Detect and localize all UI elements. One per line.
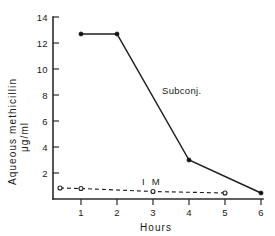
y-tick-label-12: 12 — [37, 38, 48, 49]
chart-svg: Aqueous methicillin μg/ml 14 12 10 8 6 4… — [0, 0, 275, 236]
y-tick-label-6: 6 — [42, 116, 48, 127]
y-tick-label-10: 10 — [37, 64, 48, 75]
y-tick-label-4: 4 — [42, 142, 48, 153]
x-tick-label-5: 5 — [222, 207, 228, 218]
y-tick-label-8: 8 — [42, 90, 48, 101]
y-axis-title-line1: Aqueous methicillin — [7, 78, 18, 185]
chart-background — [0, 0, 275, 236]
series-subconj-point-4 — [187, 158, 191, 162]
x-tick-label-4: 4 — [186, 207, 192, 218]
series-im-point-0 — [58, 186, 62, 190]
series-im-point-1 — [79, 187, 83, 191]
y-axis-title-line2: μg/ml — [19, 122, 30, 152]
series-im-point-3 — [151, 190, 155, 194]
series-subconj-point-2 — [115, 32, 119, 36]
chart-figure: Aqueous methicillin μg/ml 14 12 10 8 6 4… — [0, 0, 275, 236]
series-im-point-5 — [223, 191, 227, 195]
x-tick-label-3: 3 — [150, 207, 156, 218]
x-tick-label-6: 6 — [258, 207, 264, 218]
series-im-annotation: I M — [142, 176, 162, 187]
y-tick-label-14: 14 — [37, 12, 48, 23]
series-subconj-point-1 — [79, 32, 83, 36]
series-subconj-point-6 — [259, 191, 263, 195]
series-subconj-annotation: Subconj. — [162, 85, 201, 96]
x-tick-label-2: 2 — [114, 207, 120, 218]
x-axis-title: Hours — [140, 222, 172, 233]
y-tick-label-2: 2 — [42, 168, 48, 179]
x-tick-label-1: 1 — [78, 207, 84, 218]
